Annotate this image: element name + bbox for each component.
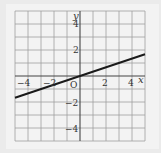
x-tick-label: −2 [43,78,56,88]
origin-label: O [70,80,77,90]
y-tick-label: 2 [73,45,79,55]
y-tick-label: −4 [65,124,79,134]
y-tick-label: −2 [65,98,78,108]
x-tick-label: 4 [128,78,134,88]
x-tick-label: −4 [17,78,31,88]
coordinate-plane: y x O −4 −2 2 4 4 2 −2 −4 [0,0,161,153]
y-tick-label: 4 [73,19,79,29]
x-axis-label: x [138,74,144,85]
x-tick-label: 2 [102,78,108,88]
